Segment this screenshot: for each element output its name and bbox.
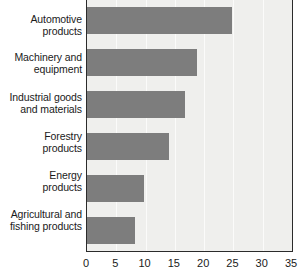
x-tick-label: 30 bbox=[248, 256, 276, 270]
category-label: Automotive products bbox=[0, 14, 82, 37]
bar bbox=[87, 175, 144, 202]
category-label-line: Automotive bbox=[0, 14, 82, 26]
x-tick-label: 25 bbox=[218, 256, 246, 270]
x-tick-label: 5 bbox=[101, 256, 129, 270]
category-axis-labels: Automotive products Machinery and equipm… bbox=[0, 0, 82, 251]
bar bbox=[87, 7, 232, 34]
category-label-line: Agricultural and bbox=[0, 209, 82, 221]
category-label: Industrial goods and materials bbox=[0, 92, 82, 115]
x-axis-line bbox=[86, 251, 292, 252]
category-label: Machinery and equipment bbox=[0, 52, 82, 75]
plot-area bbox=[86, 0, 293, 252]
x-tick-label: 35 bbox=[277, 256, 304, 270]
x-tick-label: 10 bbox=[131, 256, 159, 270]
category-label-line: products bbox=[0, 143, 82, 155]
x-tick-label: 15 bbox=[160, 256, 188, 270]
x-tick-label: 0 bbox=[72, 256, 100, 270]
category-label-line: and materials bbox=[0, 104, 82, 116]
category-label-line: Machinery and bbox=[0, 52, 82, 64]
category-label-line: Forestry bbox=[0, 131, 82, 143]
bar bbox=[87, 133, 169, 160]
bar-chart: Automotive products Machinery and equipm… bbox=[0, 0, 304, 280]
category-label-line: Industrial goods bbox=[0, 92, 82, 104]
gridline bbox=[292, 0, 293, 251]
category-label-line: equipment bbox=[0, 64, 82, 76]
category-label-line: products bbox=[0, 182, 82, 194]
bar bbox=[87, 91, 185, 118]
x-tick-label: 20 bbox=[189, 256, 217, 270]
bar bbox=[87, 49, 197, 76]
category-label-line: fishing products bbox=[0, 221, 82, 233]
bar bbox=[87, 217, 135, 244]
bars-layer bbox=[87, 0, 292, 251]
category-label: Energy products bbox=[0, 170, 82, 193]
x-axis-tick-labels: 05101520253035 bbox=[0, 256, 304, 276]
category-label-line: products bbox=[0, 26, 82, 38]
category-label-line: Energy bbox=[0, 170, 82, 182]
category-label: Agricultural and fishing products bbox=[0, 209, 82, 232]
category-label: Forestry products bbox=[0, 131, 82, 154]
